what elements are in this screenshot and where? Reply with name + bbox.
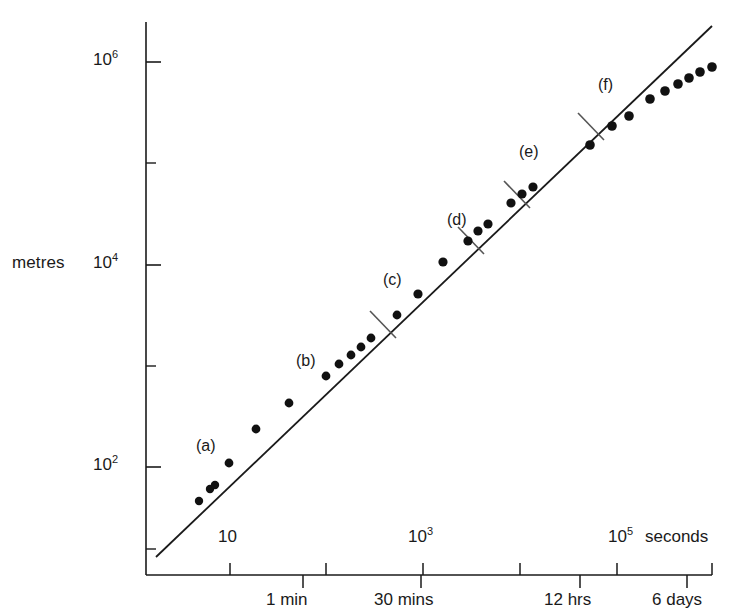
x-tick-exponent: 5 [627, 525, 633, 537]
data-point [211, 481, 219, 489]
scatter-plot-canvas [0, 0, 731, 615]
y-tick-label-1e4: 104 [93, 253, 118, 273]
data-point [624, 111, 634, 121]
x-time-label-6-days: 6 days [652, 590, 702, 610]
y-axis-title: metres [12, 253, 65, 273]
data-point [367, 334, 376, 343]
x-tick-base: 10 [408, 527, 427, 546]
data-point [528, 182, 537, 191]
x-axis-unit-label: seconds [645, 527, 708, 547]
x-tick-label-1e3: 103 [408, 527, 433, 547]
x-tick-label-10: 10 [218, 527, 237, 547]
x-time-label-30-mins: 30 mins [374, 590, 434, 610]
x-time-label-12-hrs: 12 hrs [544, 590, 591, 610]
y-tick-exponent: 6 [112, 48, 118, 60]
x-time-label-1-min: 1 min [266, 590, 308, 610]
data-point [483, 219, 492, 228]
data-point [357, 343, 366, 352]
x-tick-exponent: 3 [427, 525, 433, 537]
segment-label-b: (b) [296, 352, 316, 370]
data-point [335, 360, 344, 369]
data-point [252, 425, 261, 434]
x-tick-label-1e5: 105 [608, 527, 633, 547]
data-point [645, 94, 655, 104]
segment-label-f: (f) [598, 76, 613, 94]
y-axis-minor-ticks [146, 163, 156, 549]
x-tick-base: 10 [608, 527, 627, 546]
fit-line [156, 26, 712, 557]
y-tick-exponent: 4 [112, 251, 118, 263]
y-tick-base: 10 [93, 455, 112, 474]
data-point [438, 257, 447, 266]
data-point [285, 399, 294, 408]
data-points [195, 62, 717, 505]
data-point [673, 79, 683, 89]
y-tick-exponent: 2 [112, 453, 118, 465]
data-point [322, 372, 331, 381]
data-point [195, 497, 203, 505]
data-point [347, 351, 356, 360]
data-point [660, 86, 670, 96]
y-tick-label-1e6: 106 [93, 50, 118, 70]
x-axis-time-ticks [303, 575, 687, 588]
data-point [473, 226, 482, 235]
data-point [463, 236, 472, 245]
data-point [707, 62, 717, 72]
x-axis-decade-ticks [230, 563, 712, 575]
data-point [695, 67, 705, 77]
data-point [607, 121, 617, 131]
y-tick-label-1e2: 102 [93, 455, 118, 475]
y-tick-base: 10 [93, 50, 112, 69]
data-point [393, 311, 402, 320]
data-point [413, 289, 422, 298]
data-point [506, 198, 515, 207]
segment-label-c: (c) [383, 271, 402, 289]
y-axis-major-ticks [146, 62, 161, 467]
segment-label-a: (a) [196, 437, 216, 455]
chart-figure: metres 106 104 102 10 103 105 seconds 1 … [0, 0, 731, 615]
y-tick-base: 10 [93, 253, 112, 272]
x-tick-base: 10 [218, 527, 237, 546]
data-point [225, 459, 234, 468]
data-point [517, 189, 526, 198]
segment-label-e: (e) [519, 143, 539, 161]
data-point [684, 73, 694, 83]
segment-label-d: (d) [447, 211, 467, 229]
data-point [585, 140, 595, 150]
